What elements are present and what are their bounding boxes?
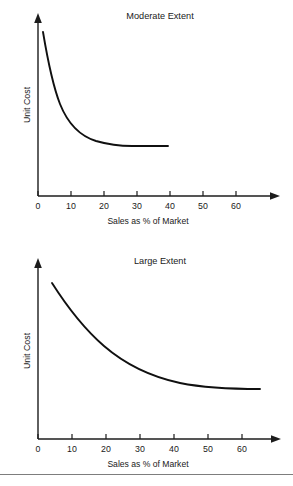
x-axis-label: Sales as % of Market bbox=[107, 216, 189, 226]
unit-cost-curve-large bbox=[52, 283, 260, 389]
y-axis-arrow-icon-large bbox=[34, 258, 42, 268]
x-tick-label: 0 bbox=[36, 444, 41, 454]
x-tick-label: 50 bbox=[203, 444, 213, 454]
x-tick-label: 40 bbox=[169, 444, 179, 454]
x-tick-label: 20 bbox=[99, 201, 109, 211]
chart-moderate-extent: 0 10 20 30 40 50 60 Moderate Extent Sale… bbox=[0, 0, 293, 243]
chart-large-extent: 0 10 20 30 40 50 60 Large Extent Sales a… bbox=[0, 243, 293, 486]
chart-title: Large Extent bbox=[134, 256, 187, 266]
x-tick-label: 20 bbox=[101, 444, 111, 454]
unit-cost-curve-moderate bbox=[43, 32, 168, 146]
footer-divider bbox=[0, 474, 293, 475]
x-axis-label: Sales as % of Market bbox=[107, 459, 189, 469]
x-tick-label: 10 bbox=[66, 201, 76, 211]
x-tick-label: 30 bbox=[132, 201, 142, 211]
y-axis-label: Unit Cost bbox=[22, 332, 32, 369]
x-tick-label: 60 bbox=[237, 444, 247, 454]
x-axis-arrow-icon-large bbox=[271, 435, 281, 443]
x-tick-label: 60 bbox=[231, 201, 241, 211]
x-axis-arrow-icon-moderate bbox=[270, 192, 280, 200]
x-tick-label: 50 bbox=[198, 201, 208, 211]
x-tick-label: 40 bbox=[165, 201, 175, 211]
x-tick-label: 0 bbox=[36, 201, 41, 211]
y-axis-label: Unit Cost bbox=[22, 86, 32, 123]
x-tick-label: 30 bbox=[135, 444, 145, 454]
y-axis-arrow-icon-moderate bbox=[34, 13, 42, 23]
x-tick-label: 10 bbox=[67, 444, 77, 454]
chart-title: Moderate Extent bbox=[126, 11, 194, 21]
